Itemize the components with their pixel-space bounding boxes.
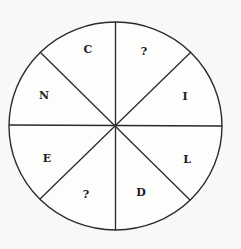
- segment-label-top-left: C: [84, 44, 93, 55]
- segment-label-right-lower: L: [183, 154, 191, 165]
- segment-label-bottom-left: ?: [83, 189, 89, 200]
- segment-label-bottom-right: D: [136, 187, 146, 198]
- segment-label-left-upper: N: [39, 90, 49, 101]
- segment-label-top-right: ?: [141, 46, 147, 57]
- segment-label-right-upper: I: [182, 91, 187, 102]
- wheel-diagram: [0, 0, 241, 249]
- segment-label-left-lower: E: [43, 153, 51, 164]
- letter-wheel-puzzle: C ? I L D ? E N: [0, 0, 241, 249]
